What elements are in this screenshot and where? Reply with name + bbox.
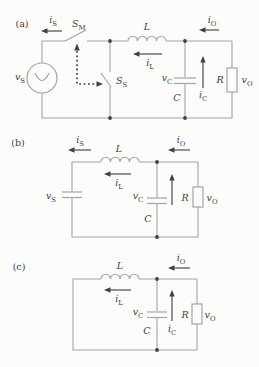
- circuit-figure-svg: (a) SM SS iS vS L: [0, 0, 259, 367]
- inductor-symbol: [101, 274, 139, 279]
- circuit-figure: (a) SM SS iS vS L: [0, 0, 259, 367]
- current-arrowhead-il: [104, 287, 111, 292]
- junction-dot: [155, 160, 159, 164]
- current-arrowhead-il: [104, 171, 111, 176]
- wire-a-top-left: [42, 41, 65, 63]
- resistor-symbol: [193, 187, 203, 207]
- panel-c-tag: (c): [13, 261, 26, 272]
- commutation-arrowhead-up: [74, 44, 80, 51]
- label-vo: vO: [242, 74, 253, 88]
- current-arrowhead-io: [168, 265, 175, 270]
- label-io: iO: [177, 134, 186, 148]
- current-arrowhead-cap: [169, 174, 174, 181]
- junction-dot: [183, 39, 187, 43]
- label-c: C: [173, 92, 181, 103]
- current-arrowhead-is: [41, 28, 48, 33]
- label-sm: SM: [72, 18, 86, 32]
- label-c: C: [144, 213, 152, 224]
- label-il: iL: [115, 177, 123, 191]
- label-r: R: [180, 309, 188, 320]
- label-io: iO: [177, 252, 186, 266]
- label-vs: vS: [15, 71, 25, 85]
- label-vc: vC: [133, 190, 144, 204]
- label-vo: vO: [207, 192, 218, 206]
- inductor-symbol: [101, 157, 139, 162]
- wire-b-bottom: [72, 197, 198, 237]
- label-r: R: [215, 74, 223, 85]
- label-c: C: [143, 325, 151, 336]
- junction-dot: [108, 39, 112, 43]
- label-is: iS: [76, 134, 84, 148]
- label-r: R: [180, 192, 188, 203]
- label-l: L: [116, 260, 123, 271]
- label-l: L: [115, 143, 122, 154]
- label-vc: vC: [133, 306, 144, 320]
- panel-c: (c) L iL iO vC C iC R vO: [13, 252, 216, 352]
- label-ss: SS: [116, 75, 128, 89]
- voltage-source-symbol: [27, 63, 57, 93]
- junction-dot: [155, 235, 159, 239]
- current-arrowhead-ic: [200, 56, 205, 63]
- current-arrowhead-il: [133, 51, 140, 56]
- label-is: iS: [49, 14, 57, 28]
- commutation-arrow: [74, 44, 103, 87]
- current-arrowhead-ic: [169, 290, 174, 297]
- label-l: L: [143, 21, 150, 32]
- junction-dot: [155, 348, 159, 352]
- commutation-dotted-path: [77, 51, 97, 84]
- label-ic: iC: [199, 89, 207, 103]
- wire-b-top-left: [72, 162, 101, 192]
- label-ic: iC: [168, 323, 176, 337]
- label-il: iL: [115, 293, 123, 307]
- junction-dot: [108, 116, 112, 120]
- panel-b-tag: (b): [11, 137, 25, 148]
- resistor-symbol: [192, 304, 202, 324]
- current-arrowhead-io: [199, 27, 206, 32]
- label-vo: vO: [205, 309, 216, 323]
- current-arrowhead-is: [68, 147, 75, 152]
- inductor-symbol: [128, 36, 166, 41]
- label-il: iL: [146, 57, 154, 71]
- switch-sm-symbol: [65, 30, 86, 41]
- label-vs: vS: [46, 190, 56, 204]
- label-vc: vC: [162, 72, 173, 86]
- label-io: iO: [208, 14, 217, 28]
- switch-ss-symbol: [101, 73, 111, 87]
- current-arrowhead-io: [168, 147, 175, 152]
- resistor-symbol: [227, 68, 237, 92]
- commutation-arrowhead-right: [97, 81, 104, 87]
- panel-b: (b) vS iS L iL iO vC C: [11, 134, 218, 239]
- panel-a-tag: (a): [15, 18, 28, 29]
- panel-a: (a) SM SS iS vS L: [15, 14, 253, 120]
- junction-dot: [183, 116, 187, 120]
- junction-dot: [155, 277, 159, 281]
